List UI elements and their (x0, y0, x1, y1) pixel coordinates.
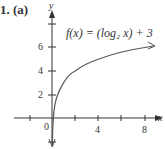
x-tick-label-8: 8 (142, 124, 147, 135)
y-tick-label-6: 6 (38, 41, 43, 52)
y-axis-label: y (49, 0, 53, 11)
chart (0, 0, 165, 149)
curve-arrow-right-icon (148, 42, 155, 49)
x-tick-label-0: 0 (44, 121, 49, 132)
x-axis-label: x (158, 112, 162, 123)
function-curve (52, 46, 154, 146)
x-tick-label-4: 4 (95, 124, 100, 135)
y-tick-label-2: 2 (38, 89, 43, 100)
y-axis-arrow-icon (49, 10, 55, 18)
function-label: f(x) = (log₂ x) + 3 (66, 26, 153, 41)
y-tick-label-4: 4 (38, 65, 43, 76)
